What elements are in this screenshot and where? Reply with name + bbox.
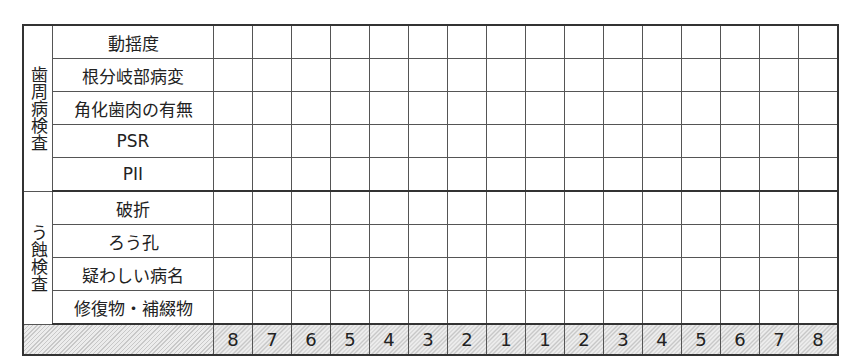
entry-cell[interactable] [370,225,409,258]
entry-cell[interactable] [721,191,760,225]
entry-cell[interactable] [370,158,409,192]
entry-cell[interactable] [487,291,526,325]
entry-cell[interactable] [526,191,565,225]
entry-cell[interactable] [799,258,839,291]
entry-cell[interactable] [565,125,604,158]
entry-cell[interactable] [253,225,292,258]
entry-cell[interactable] [604,125,643,158]
entry-cell[interactable] [253,25,292,59]
entry-cell[interactable] [448,225,487,258]
entry-cell[interactable] [760,258,799,291]
entry-cell[interactable] [565,158,604,192]
entry-cell[interactable] [565,291,604,325]
entry-cell[interactable] [682,125,721,158]
entry-cell[interactable] [760,25,799,59]
entry-cell[interactable] [721,59,760,92]
entry-cell[interactable] [643,258,682,291]
entry-cell[interactable] [604,25,643,59]
entry-cell[interactable] [565,25,604,59]
entry-cell[interactable] [487,258,526,291]
entry-cell[interactable] [292,25,331,59]
entry-cell[interactable] [682,291,721,325]
entry-cell[interactable] [331,291,370,325]
entry-cell[interactable] [214,25,253,59]
entry-cell[interactable] [292,191,331,225]
entry-cell[interactable] [214,258,253,291]
entry-cell[interactable] [682,225,721,258]
entry-cell[interactable] [214,225,253,258]
entry-cell[interactable] [448,258,487,291]
entry-cell[interactable] [643,59,682,92]
entry-cell[interactable] [721,25,760,59]
entry-cell[interactable] [214,158,253,192]
entry-cell[interactable] [409,191,448,225]
entry-cell[interactable] [331,191,370,225]
entry-cell[interactable] [409,125,448,158]
entry-cell[interactable] [721,258,760,291]
entry-cell[interactable] [487,125,526,158]
entry-cell[interactable] [526,291,565,325]
entry-cell[interactable] [760,59,799,92]
entry-cell[interactable] [253,158,292,192]
entry-cell[interactable] [799,191,839,225]
entry-cell[interactable] [643,125,682,158]
entry-cell[interactable] [565,258,604,291]
entry-cell[interactable] [487,158,526,192]
entry-cell[interactable] [760,191,799,225]
entry-cell[interactable] [292,291,331,325]
entry-cell[interactable] [604,158,643,192]
entry-cell[interactable] [292,92,331,125]
entry-cell[interactable] [292,59,331,92]
entry-cell[interactable] [643,25,682,59]
entry-cell[interactable] [643,291,682,325]
entry-cell[interactable] [370,25,409,59]
entry-cell[interactable] [487,59,526,92]
entry-cell[interactable] [253,191,292,225]
entry-cell[interactable] [799,92,839,125]
entry-cell[interactable] [370,125,409,158]
entry-cell[interactable] [448,158,487,192]
entry-cell[interactable] [799,25,839,59]
entry-cell[interactable] [487,225,526,258]
entry-cell[interactable] [448,59,487,92]
entry-cell[interactable] [643,158,682,192]
entry-cell[interactable] [409,25,448,59]
entry-cell[interactable] [292,158,331,192]
entry-cell[interactable] [604,291,643,325]
entry-cell[interactable] [214,125,253,158]
entry-cell[interactable] [604,225,643,258]
entry-cell[interactable] [604,258,643,291]
entry-cell[interactable] [331,59,370,92]
entry-cell[interactable] [370,92,409,125]
entry-cell[interactable] [331,92,370,125]
entry-cell[interactable] [721,125,760,158]
entry-cell[interactable] [760,291,799,325]
entry-cell[interactable] [526,225,565,258]
entry-cell[interactable] [292,258,331,291]
entry-cell[interactable] [526,59,565,92]
entry-cell[interactable] [409,258,448,291]
entry-cell[interactable] [409,225,448,258]
entry-cell[interactable] [448,291,487,325]
entry-cell[interactable] [526,258,565,291]
entry-cell[interactable] [253,258,292,291]
entry-cell[interactable] [487,92,526,125]
entry-cell[interactable] [565,59,604,92]
entry-cell[interactable] [760,125,799,158]
entry-cell[interactable] [565,191,604,225]
entry-cell[interactable] [487,191,526,225]
entry-cell[interactable] [409,92,448,125]
entry-cell[interactable] [253,125,292,158]
entry-cell[interactable] [253,291,292,325]
entry-cell[interactable] [409,158,448,192]
entry-cell[interactable] [214,291,253,325]
entry-cell[interactable] [799,158,839,192]
entry-cell[interactable] [331,158,370,192]
entry-cell[interactable] [409,291,448,325]
entry-cell[interactable] [370,258,409,291]
entry-cell[interactable] [604,191,643,225]
entry-cell[interactable] [526,25,565,59]
entry-cell[interactable] [331,125,370,158]
entry-cell[interactable] [682,258,721,291]
entry-cell[interactable] [799,59,839,92]
